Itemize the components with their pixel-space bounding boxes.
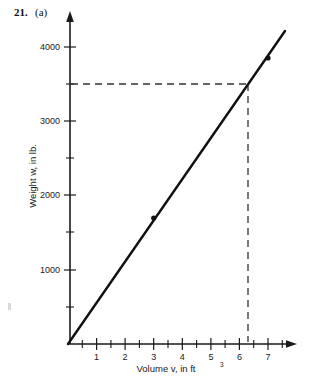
figure-panel: 21. (a) 4000 3000 <box>0 0 312 376</box>
y-tick-label: 3000 <box>40 116 60 126</box>
data-point-marker <box>151 215 156 220</box>
weight-volume-plot: 4000 3000 2000 1000 1 <box>0 0 312 376</box>
y-axis <box>66 11 74 344</box>
data-line <box>68 31 285 344</box>
y-axis-tick-labels: 4000 3000 2000 1000 <box>40 42 60 275</box>
y-axis-title-text: Weight w, in lb. <box>27 144 38 208</box>
x-tick-label: 7 <box>265 352 270 362</box>
x-axis-tick-labels: 1 2 3 4 5 6 7 <box>94 352 270 362</box>
data-point-marker <box>265 55 270 60</box>
y-tick-label: 4000 <box>40 42 60 52</box>
x-tick-label: 1 <box>94 352 99 362</box>
x-axis-title-exponent: 3 <box>220 361 224 368</box>
x-axis-title-text: Volume v, in ft <box>137 363 196 374</box>
x-tick-label: 3 <box>151 352 156 362</box>
x-axis-title: Volume v, in ft 3 <box>137 361 224 374</box>
x-tick-label: 6 <box>237 352 242 362</box>
x-tick-label: 4 <box>180 352 185 362</box>
y-tick-label: 1000 <box>40 265 60 275</box>
x-tick-label: 5 <box>208 352 213 362</box>
x-tick-label: 2 <box>123 352 128 362</box>
y-tick-label: 2000 <box>40 190 60 200</box>
